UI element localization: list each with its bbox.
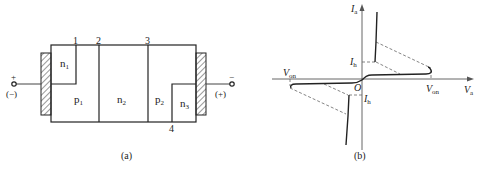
left-terminal [12,82,16,86]
y-axis-label: Ia [350,3,358,16]
left-terminal-alt-sign: (−) [6,89,17,99]
region-n1-label: n1 [60,57,70,71]
boundary-label-4: 4 [169,123,174,134]
right-terminal-alt-sign: (+) [215,89,226,99]
ih-bottom-label: Ih [363,93,371,106]
lower-dash-1 [290,88,346,114]
diagram-canvas: + (−) − (+) 1 2 3 4 n1 p1 n2 p2 n3 (a) [0,0,481,169]
x-axis-label: Va [464,84,474,97]
panel-b-caption: (b) [354,150,366,162]
right-terminal [230,82,234,86]
upper-dash-1 [376,42,431,68]
iv-curve-forward-on-branch [375,12,377,62]
origin-label: O [354,82,361,93]
panel-a-caption: (a) [121,150,132,162]
von-right-label: Von [426,83,440,96]
region-n2-label: n2 [117,93,127,107]
region-p1-label: p1 [74,93,84,107]
left-electrode [41,53,51,115]
panel-b-iv-curve: Ia Va O Ih Ih Von Von (b) [272,3,474,162]
y-axis-arrow-icon [360,4,365,11]
iv-curve-forward [362,67,431,80]
left-terminal-sign: + [11,72,16,82]
panel-a-device-structure: + (−) − (+) 1 2 3 4 n1 p1 n2 p2 n3 (a) [6,35,234,162]
iv-curve-reverse [291,80,362,88]
region-p2-label: p2 [155,93,165,107]
x-axis-arrow-icon [467,77,474,82]
boundary-label-2: 2 [96,35,101,46]
von-left-label: Von [283,67,297,80]
right-terminal-sign: − [229,72,234,82]
right-electrode [196,53,206,115]
lower-dash-2 [324,84,348,95]
iv-curve-reverse-on-branch [346,95,349,145]
upper-dash-2 [376,62,400,74]
region-n3-label: n3 [180,97,190,111]
boundary-label-1: 1 [73,35,78,46]
ih-top-label: Ih [349,56,357,69]
boundary-label-3: 3 [145,35,150,46]
